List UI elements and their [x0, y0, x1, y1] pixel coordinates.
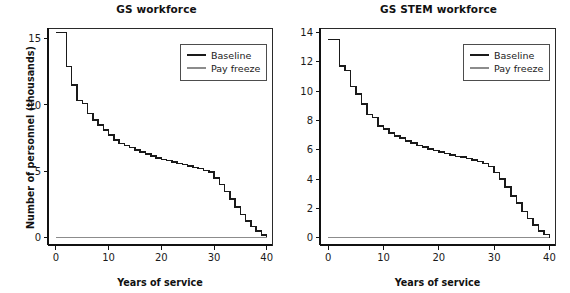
y-tick-label: 12: [300, 56, 313, 67]
legend-label-baseline: Baseline: [211, 50, 251, 61]
y-tick-label: 8: [307, 115, 313, 126]
y-tick-label: 15: [28, 33, 41, 44]
y-tick-label: 6: [307, 144, 313, 155]
x-tick-label: 10: [377, 252, 390, 263]
y-tick-label: 2: [307, 203, 313, 214]
x-tick-label: 30: [208, 252, 221, 263]
legend-label-pay-freeze: Pay freeze: [211, 63, 260, 74]
x-axis-label-left: Years of service: [48, 277, 272, 288]
figure-container: GS workforce Number of personnel (thousa…: [0, 0, 570, 293]
y-tick-label: 14: [300, 27, 313, 38]
chart-svg-right: 02468101214010203040BaselinePay freeze: [285, 0, 570, 293]
x-tick-label: 30: [488, 252, 501, 263]
chart-panel-gs-workforce: GS workforce Number of personnel (thousa…: [0, 0, 285, 293]
x-tick-label: 0: [53, 252, 59, 263]
y-tick-label: 10: [300, 86, 313, 97]
y-tick-label: 0: [35, 232, 41, 243]
x-axis-label-right: Years of service: [320, 277, 555, 288]
x-tick-label: 20: [155, 252, 168, 263]
x-tick-label: 40: [543, 252, 556, 263]
y-tick-label: 10: [28, 100, 41, 111]
chart-panel-gs-stem-workforce: GS STEM workforce 02468101214010203040Ba…: [285, 0, 570, 293]
x-tick-label: 20: [433, 252, 446, 263]
y-tick-label: 0: [307, 232, 313, 243]
chart-svg-left: 051015010203040BaselinePay freeze: [0, 0, 285, 293]
y-tick-label: 4: [307, 174, 313, 185]
x-tick-label: 10: [102, 252, 115, 263]
legend-label-baseline: Baseline: [494, 50, 534, 61]
x-tick-label: 0: [325, 252, 331, 263]
x-tick-label: 40: [260, 252, 273, 263]
legend-label-pay-freeze: Pay freeze: [494, 63, 543, 74]
y-tick-label: 5: [35, 166, 41, 177]
